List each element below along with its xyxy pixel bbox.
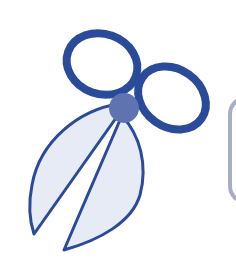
pivot-screw: [109, 93, 139, 123]
upper-handle-ring: [58, 23, 146, 104]
scissors-icon: [0, 0, 236, 270]
scissors-illustration: [0, 0, 236, 270]
panel-edge: [228, 96, 236, 204]
